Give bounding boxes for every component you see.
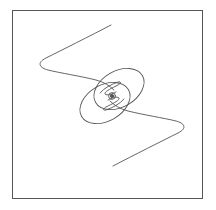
curve-arm-lower (110, 101, 184, 166)
curve-arm-upper (40, 25, 114, 90)
outer-loop-lower (73, 74, 138, 132)
center-knot-inner (110, 94, 113, 97)
spiral-curve-diagram (0, 0, 216, 210)
outer-loop-upper (87, 60, 152, 118)
